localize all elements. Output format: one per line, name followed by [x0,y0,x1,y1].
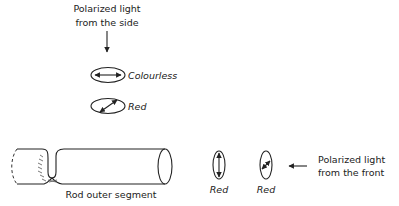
front-light-label-line1: Polarized light [318,154,385,165]
front-view-label: Red [210,184,229,195]
side-view-diagonal: Red [91,99,147,114]
front-light-label: Polarized light from the front [318,154,385,178]
side-light-label: Polarized light from the side [73,3,140,28]
front-view-diagonal: Red [257,151,276,195]
rod-outer-segment: Rod outer segment [12,149,172,200]
rod-label: Rod outer segment [65,189,156,200]
front-view-label: Red [257,184,276,195]
rod-end-cap [158,149,172,184]
diagram-canvas: Polarized light from the side Colourless… [0,0,399,206]
diagonal-double-arrow-icon [100,100,117,112]
rod-bottom-outline [17,178,165,184]
front-light-label-line2: from the front [318,167,385,178]
side-view-horizontal: Colourless [91,68,177,83]
front-view-vertical: Red [210,151,229,195]
rod-broken-end [12,149,17,184]
side-light-label-line1: Polarized light [73,3,140,14]
diagonal-double-arrow-icon [262,161,270,169]
side-view-label: Colourless [128,70,177,81]
side-light-label-line2: from the side [75,17,138,28]
side-view-label: Red [128,101,147,112]
